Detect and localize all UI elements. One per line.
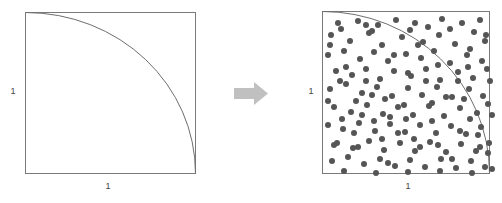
sample-dot	[327, 86, 333, 92]
sample-dot	[455, 69, 461, 75]
sample-dot	[410, 112, 416, 118]
sample-dot	[455, 78, 461, 84]
sample-dot	[447, 26, 453, 32]
sample-dot	[407, 27, 413, 33]
sample-dot	[385, 160, 391, 166]
sample-dot	[470, 75, 476, 81]
sample-dot	[355, 144, 361, 150]
sample-dot	[359, 112, 365, 118]
sample-dot	[449, 156, 455, 162]
sample-dot	[371, 118, 377, 124]
sample-dot	[359, 90, 365, 96]
sample-dot	[433, 130, 439, 136]
sample-dot	[405, 85, 411, 91]
sample-dot	[329, 158, 335, 164]
sample-dot	[385, 58, 391, 64]
sample-dot	[343, 81, 349, 87]
sample-dot	[369, 92, 375, 98]
sample-dot	[338, 26, 344, 32]
sample-dot	[339, 116, 345, 122]
sample-dot	[469, 170, 475, 176]
sample-dot	[477, 144, 483, 150]
sample-dot	[435, 142, 441, 148]
sample-dot	[457, 128, 463, 134]
left-panel-y-axis-label: 1	[10, 86, 15, 96]
sample-dot	[417, 144, 423, 150]
sample-dot	[482, 38, 488, 44]
sample-dot	[402, 129, 408, 135]
sample-dot	[379, 136, 385, 142]
sample-dot	[485, 101, 491, 107]
left-panel-x-axis-label: 1	[105, 181, 110, 191]
sample-dot	[395, 130, 401, 136]
sample-dot	[364, 102, 370, 108]
sample-dot	[467, 116, 473, 122]
right-panel-square	[323, 12, 490, 174]
right-panel: 1 1	[308, 12, 495, 192]
sample-dot	[401, 102, 407, 108]
sample-dot	[381, 147, 387, 153]
sample-dot	[466, 86, 472, 92]
sample-dot	[425, 24, 431, 30]
sample-dot	[333, 68, 339, 74]
sample-dot	[437, 77, 443, 83]
sample-dot	[325, 122, 331, 128]
sample-dot	[341, 48, 347, 54]
sample-dot	[415, 42, 421, 48]
sample-dot	[380, 111, 386, 117]
sample-dot	[452, 41, 458, 47]
sample-dot	[447, 60, 453, 66]
sample-dot	[331, 104, 337, 110]
sample-dot	[373, 170, 379, 176]
sample-dot	[372, 128, 378, 134]
sample-dot	[443, 149, 449, 155]
sample-dot	[436, 32, 442, 38]
sample-dot	[341, 168, 347, 174]
sample-dot	[357, 56, 363, 62]
sample-dot	[417, 122, 423, 128]
left-panel-square	[26, 13, 196, 174]
sample-dot	[467, 46, 473, 52]
sample-dot	[431, 48, 437, 54]
sample-dot	[485, 150, 491, 156]
sample-dot	[351, 130, 357, 136]
sample-dot	[379, 42, 385, 48]
transform-arrow	[234, 82, 268, 105]
sample-dot	[353, 98, 359, 104]
sample-dot	[422, 164, 428, 170]
sample-dot	[419, 92, 425, 98]
sample-dot	[484, 66, 490, 72]
sample-dot	[468, 158, 474, 164]
sample-dot	[489, 166, 495, 172]
sample-dot	[474, 110, 480, 116]
sample-dot	[355, 18, 361, 24]
sample-dot	[449, 94, 455, 100]
sample-dot	[348, 109, 354, 115]
sample-dot	[439, 16, 445, 22]
sample-dot	[412, 148, 418, 154]
sample-dot	[411, 136, 417, 142]
sample-dot	[397, 140, 403, 146]
sample-dot	[453, 165, 459, 171]
sample-dot	[363, 78, 369, 84]
sample-dot	[392, 163, 398, 169]
left-panel: 1 1	[10, 13, 195, 192]
sample-dot	[325, 98, 331, 104]
sample-dot	[361, 161, 367, 167]
sample-dot	[471, 29, 477, 35]
sample-dot	[347, 38, 353, 44]
sample-dot	[459, 20, 465, 26]
sample-dot	[389, 93, 395, 99]
sample-dot	[435, 62, 441, 68]
sample-dot	[480, 93, 486, 99]
sample-dot	[371, 49, 377, 55]
sample-dot	[478, 124, 484, 130]
sample-dot	[461, 96, 467, 102]
sample-dot	[377, 76, 383, 82]
sample-dot	[356, 120, 362, 126]
sample-dot	[363, 66, 369, 72]
sample-dot	[437, 168, 443, 174]
sample-dot	[482, 164, 488, 170]
sample-dot	[377, 156, 383, 162]
sample-dot	[325, 52, 331, 58]
